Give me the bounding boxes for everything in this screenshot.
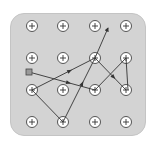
plus-circle-icon (90, 21, 101, 32)
plus-circle-icon (27, 53, 38, 64)
grid-nodes (27, 21, 132, 128)
plus-circle-icon (58, 21, 69, 32)
start-square-icon (26, 69, 32, 75)
plus-circle-icon (121, 21, 132, 32)
arrow-icon (66, 80, 72, 85)
path-segment (32, 90, 63, 122)
path-segment (95, 28, 108, 58)
path-lines (29, 28, 128, 122)
plus-circle-icon (27, 117, 38, 128)
plus-circle-icon (58, 53, 69, 64)
plus-circle-icon (58, 85, 69, 96)
plus-circle-icon (121, 117, 132, 128)
path-diagram (0, 0, 153, 149)
plus-circle-icon (27, 21, 38, 32)
arrow-icon (67, 68, 73, 74)
start-marker (26, 69, 32, 75)
plus-circle-icon (90, 117, 101, 128)
